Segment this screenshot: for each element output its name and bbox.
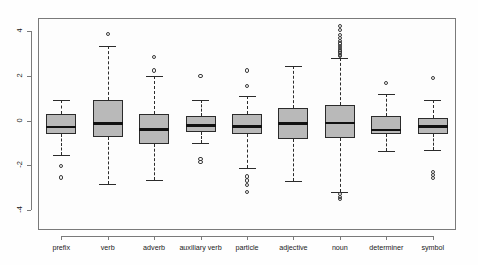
whisker-upper [340,58,341,104]
whisker-upper [61,100,62,114]
x-axis-tick-mark [61,236,62,240]
outlier-point [245,68,249,72]
outlier-point [59,175,63,179]
x-axis-tick-label-adjective: adjective [279,243,307,252]
whisker-lower [433,134,434,150]
whisker-upper [154,76,155,114]
x-axis-tick-mark [340,236,341,240]
median-line [418,125,448,127]
whisker-upper [201,100,202,116]
cap-upper [99,46,116,47]
x-axis-tick-mark [247,236,248,240]
cap-lower [239,168,256,169]
y-axis-line [31,31,32,210]
y-axis-tick-label: 4 [15,21,24,41]
cap-lower [53,155,70,156]
outlier-point [198,160,202,164]
whisker-lower [340,138,341,192]
whisker-lower [386,134,387,151]
cap-lower [146,180,163,181]
median-line [93,122,123,124]
cap-upper [378,94,395,95]
y-axis-tick-label: 2 [15,66,24,86]
x-axis-tick-label-noun: noun [332,243,348,252]
y-axis-tick-mark [27,210,31,211]
whisker-upper [386,94,387,116]
cap-lower [192,143,209,144]
whisker-upper [293,66,294,108]
outlier-point [106,32,110,36]
median-line [278,122,308,124]
cap-upper [146,76,163,77]
cap-upper [424,100,441,101]
box-iqr [232,114,262,135]
x-axis-tick-label-determiner: determiner [369,243,403,252]
cap-upper [239,96,256,97]
x-axis-tick-mark [433,236,434,240]
cap-lower [424,150,441,151]
outlier-point [245,183,249,187]
x-axis-tick-mark [386,236,387,240]
cap-upper [53,100,70,101]
whisker-lower [61,134,62,155]
y-axis-tick-mark [27,121,31,122]
box-iqr [93,100,123,137]
outlier-point [338,197,342,201]
outlier-point [245,178,249,182]
x-axis-tick-mark [293,236,294,240]
cap-upper [331,58,348,59]
whisker-lower [201,132,202,143]
cap-lower [285,181,302,182]
x-axis-tick-mark [108,236,109,240]
x-axis-tick-label-prefix: prefix [52,243,70,252]
whisker-upper [108,46,109,100]
median-line [186,124,216,126]
x-axis-tick-label-particle: particle [235,243,258,252]
median-line [325,122,355,124]
x-axis-tick-mark [201,236,202,240]
outlier-point [152,68,156,72]
median-line [371,129,401,131]
cap-lower [99,184,116,185]
box-iqr [46,114,76,135]
cap-upper [285,66,302,67]
median-line [232,125,262,127]
x-axis-tick-label-symbol: symbol [421,243,444,252]
whisker-lower [108,137,109,184]
whisker-lower [293,139,294,181]
median-line [46,126,76,128]
y-axis-tick-mark [27,165,31,166]
outlier-point [198,74,202,78]
y-axis-tick-mark [27,31,31,32]
y-axis-tick-label: -2 [15,155,24,175]
x-axis-tick-mark [154,236,155,240]
cap-lower [378,151,395,152]
whisker-lower [154,144,155,180]
y-axis-tick-mark [27,76,31,77]
y-axis-tick-label: 0 [15,110,24,130]
whisker-upper [433,100,434,118]
x-axis-tick-label-verb: verb [101,243,115,252]
whisker-upper [247,96,248,114]
whisker-lower [247,134,248,167]
median-line [139,128,169,130]
x-axis-tick-label-auxiliary-verb: auxiliary verb [179,243,221,252]
x-axis-tick-label-adverb: adverb [143,243,165,252]
y-axis-tick-label: -4 [15,199,24,219]
boxplot-figure: -4-2024 prefixverbadverbauxiliary verbpa… [0,0,478,265]
cap-upper [192,100,209,101]
